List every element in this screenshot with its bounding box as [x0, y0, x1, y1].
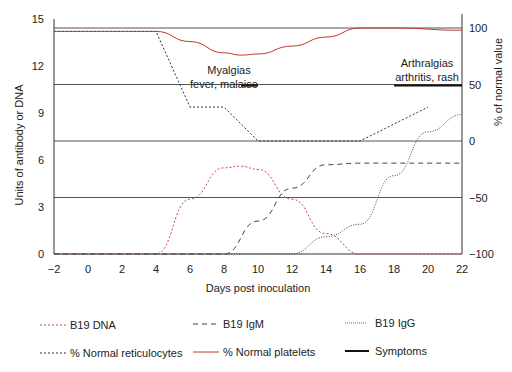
x-tick-label: 10: [252, 263, 264, 275]
y-tick-label: 6: [38, 154, 44, 166]
x-tick-label: 2: [119, 263, 125, 275]
legend-item-b19-igg: B19 IgG: [345, 317, 415, 329]
x-tick-label: 6: [187, 263, 193, 275]
x-axis-label: Days post inoculation: [206, 282, 311, 294]
legend-item-platelets: % Normal platelets: [193, 346, 315, 358]
series-normal-platelets: [54, 28, 462, 55]
axes: −2024681012141618202203691215−100−500501…: [32, 13, 494, 275]
annotation-arthralgias-line1: Arthralgias: [401, 57, 454, 69]
legend-swatch-solid: [193, 349, 219, 355]
annotation-myalgias-line1: Myalgias: [207, 64, 251, 76]
x-tick-label: 8: [221, 263, 227, 275]
legend-swatch-solid-thick: [345, 348, 371, 354]
legend-item-b19-dna: B19 DNA: [40, 319, 116, 331]
y-tick-label-right: −100: [469, 248, 494, 260]
legend-label: B19 IgG: [375, 317, 415, 329]
x-tick-label: 4: [153, 263, 159, 275]
x-tick-label: 0: [85, 263, 91, 275]
y-tick-label: 9: [38, 107, 44, 119]
y-axis-label: Units of antibody or DNA: [13, 84, 25, 206]
legend-label: Symptoms: [375, 345, 427, 357]
y-tick-label-right: 50: [469, 79, 481, 91]
y-tick-label: 0: [38, 248, 44, 260]
series-b19-igg: [54, 115, 462, 254]
x-tick-label: −2: [48, 263, 61, 275]
legend-label: % Normal platelets: [223, 346, 315, 358]
legend-label: B19 IgM: [223, 318, 264, 330]
annotation-myalgias-line2: fever, malaise: [190, 78, 258, 90]
annotation-arthralgias-line2: arthritis, rash: [395, 71, 459, 83]
x-tick-label: 14: [320, 263, 332, 275]
y-axis-label-right: % of normal value: [492, 38, 504, 126]
legend-swatch-dotted: [345, 320, 371, 326]
x-tick-label: 18: [388, 263, 400, 275]
legend-label: B19 DNA: [70, 319, 116, 331]
x-tick-label: 16: [354, 263, 366, 275]
legend-label: % Normal reticulocytes: [70, 347, 182, 359]
y-tick-label-right: 100: [469, 22, 487, 34]
x-tick-label: 12: [286, 263, 298, 275]
legend-swatch-dashed-fine: [40, 322, 66, 328]
y-tick-label: 15: [32, 13, 44, 25]
gridlines: [54, 28, 462, 198]
series-b19-igm: [54, 163, 462, 254]
chart-canvas: −2024681012141618202203691215−100−500501…: [0, 0, 512, 372]
legend-swatch-dashed-fine: [40, 350, 66, 356]
legend-swatch-dashed: [193, 321, 219, 327]
legend-item-reticulocytes: % Normal reticulocytes: [40, 347, 182, 359]
x-tick-label: 22: [456, 263, 468, 275]
series-b19-dna: [54, 166, 462, 254]
legend-item-b19-igm: B19 IgM: [193, 318, 264, 330]
y-tick-label-right: −50: [469, 192, 488, 204]
y-tick-label: 12: [32, 60, 44, 72]
y-tick-label-right: 0: [469, 135, 475, 147]
x-tick-label: 20: [422, 263, 434, 275]
y-tick-label: 3: [38, 201, 44, 213]
legend-item-symptoms: Symptoms: [345, 345, 427, 357]
